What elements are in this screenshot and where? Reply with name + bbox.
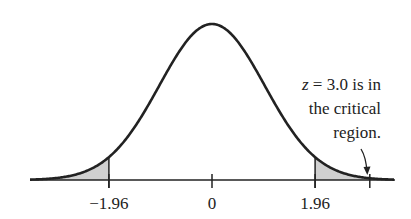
tick-label: 0	[208, 194, 217, 213]
annotation-line-1: z = 3.0 is in	[302, 73, 381, 97]
annotation-line-3: region.	[302, 121, 381, 145]
tick-label: −1.96	[89, 194, 128, 213]
arrowhead-icon	[364, 167, 371, 176]
annotation-line-2: the critical	[302, 97, 381, 121]
critical-region-annotation: z = 3.0 is in the critical region.	[302, 73, 381, 145]
tick-label: 1.96	[300, 194, 330, 213]
